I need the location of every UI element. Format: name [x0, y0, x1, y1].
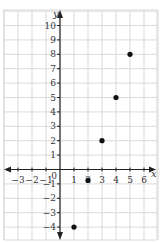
- y-axis-label: y: [52, 8, 59, 19]
- data-point: [127, 52, 132, 57]
- y-tick-label: −2: [43, 193, 56, 203]
- y-axis-down-arrow-icon: [57, 232, 63, 240]
- y-tick-label: −1: [43, 179, 56, 189]
- x-axis-left-arrow-icon: [4, 167, 11, 173]
- y-tick-label: 2: [50, 136, 56, 146]
- data-point: [113, 95, 118, 100]
- x-tick-label: 5: [127, 175, 133, 185]
- y-tick-label: 7: [50, 64, 56, 74]
- x-tick-label: 4: [113, 175, 119, 185]
- y-tick-label: −3: [43, 208, 57, 218]
- y-tick-label: 10: [45, 21, 57, 31]
- x-tick-label: −2: [25, 175, 38, 185]
- x-tick-label: −3: [11, 175, 25, 185]
- x-tick-label: 6: [141, 175, 147, 185]
- x-axis-label: x: [151, 168, 157, 179]
- y-tick-label: 5: [50, 93, 56, 103]
- x-tick-label: 3: [99, 175, 105, 185]
- y-tick-label: 6: [50, 78, 56, 88]
- coordinate-plane: −3−2−10123456 −4−3−2−112345678910 x y: [0, 0, 160, 242]
- grid-border: [4, 10, 157, 240]
- axes: [4, 10, 156, 240]
- y-tick-label: −4: [43, 222, 57, 232]
- y-tick-label: 3: [50, 121, 56, 131]
- data-point: [85, 178, 90, 183]
- y-tick-label: 4: [50, 107, 56, 117]
- data-point: [71, 225, 76, 230]
- y-tick-label: 9: [50, 35, 56, 45]
- y-tick-label: 8: [50, 49, 56, 59]
- x-tick-label: 1: [71, 175, 77, 185]
- grid-lines: [4, 10, 158, 240]
- y-tick-label: 1: [50, 150, 56, 160]
- data-point: [99, 138, 104, 143]
